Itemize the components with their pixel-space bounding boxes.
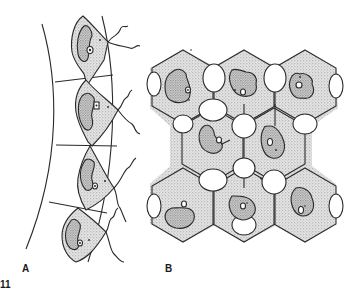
process	[106, 232, 124, 262]
panel-label-b: B	[165, 263, 172, 274]
nucleus	[182, 201, 187, 207]
panel-label-a: A	[22, 263, 29, 274]
pocket	[199, 169, 227, 191]
divider	[55, 75, 113, 82]
process	[114, 188, 126, 222]
process	[118, 110, 140, 134]
pocket	[264, 64, 286, 92]
pocket	[147, 194, 161, 218]
pocket	[293, 114, 317, 134]
outer-boundary	[26, 24, 54, 249]
pocket	[233, 158, 255, 178]
pocket	[203, 64, 225, 92]
pocket	[173, 115, 193, 133]
nucleus	[299, 207, 304, 214]
divider	[56, 145, 117, 146]
pocket	[147, 72, 161, 96]
process	[108, 26, 128, 42]
figure-number: 11	[0, 279, 11, 290]
nucleus	[217, 137, 222, 143]
panel-b	[147, 49, 343, 242]
process	[108, 42, 140, 48]
process	[118, 90, 132, 110]
pocket	[262, 170, 286, 194]
cell-body	[165, 208, 194, 229]
pocket	[199, 99, 227, 121]
cell	[71, 16, 140, 84]
pocket	[329, 74, 343, 98]
nucleus	[241, 89, 246, 95]
pocket	[329, 194, 343, 218]
figure-illustration	[0, 0, 360, 291]
cell	[62, 208, 124, 262]
process	[106, 208, 118, 232]
process	[114, 158, 136, 188]
cell	[77, 146, 136, 222]
nucleus	[241, 203, 246, 209]
panel-a	[26, 16, 140, 262]
nucleus	[296, 82, 302, 88]
pocket	[232, 114, 256, 138]
cell	[75, 80, 140, 146]
nucleus	[268, 139, 273, 146]
